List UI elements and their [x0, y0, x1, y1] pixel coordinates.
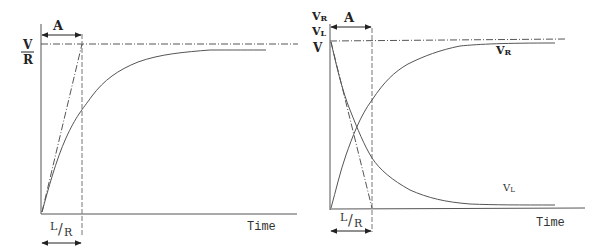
left-lr-slash: / — [58, 221, 63, 237]
right-asymptote-line — [330, 39, 566, 41]
right-vr-curve-label-main: V — [495, 44, 505, 57]
right-x-axis — [330, 208, 585, 209]
left-panel: A V R L / R Time — [21, 18, 298, 243]
right-vl-curve-label-sub: L — [510, 186, 515, 194]
right-lr-numerator: L — [340, 211, 348, 224]
left-tangent-line — [42, 44, 82, 212]
rl-circuit-diagram: A V R L / R Time A VR — [0, 0, 601, 250]
right-vl-curve-label: VL — [502, 182, 515, 194]
right-panel: A VR VL V VR VL L / R Time — [311, 10, 585, 232]
left-y-label-denominator: R — [23, 53, 34, 67]
right-a-label: A — [343, 10, 355, 25]
right-y-label-vl-main: V — [311, 25, 321, 38]
right-y-label-vr: VR — [311, 10, 328, 23]
left-x-axis-label: Time — [247, 220, 276, 234]
right-y-label-vl: VL — [311, 25, 327, 38]
left-y-label-numerator: V — [22, 38, 33, 52]
left-a-label: A — [52, 18, 64, 33]
right-lr-slash: / — [348, 212, 353, 228]
left-lr-numerator: L — [50, 220, 58, 233]
right-y-label-vr-main: V — [311, 10, 321, 23]
right-vl-curve — [331, 42, 555, 205]
right-y-label-vl-sub: L — [321, 28, 327, 38]
right-vr-curve — [331, 43, 555, 208]
right-y-label-v: V — [312, 41, 323, 55]
right-lr-denominator: R — [354, 217, 363, 230]
left-current-curve — [42, 50, 266, 212]
right-y-label-vr-sub: R — [321, 13, 328, 23]
left-lr-denominator: R — [64, 226, 73, 239]
right-vr-curve-label: VR — [495, 44, 512, 57]
right-vr-curve-label-sub: R — [505, 47, 512, 57]
right-x-axis-label: Time — [536, 216, 565, 230]
